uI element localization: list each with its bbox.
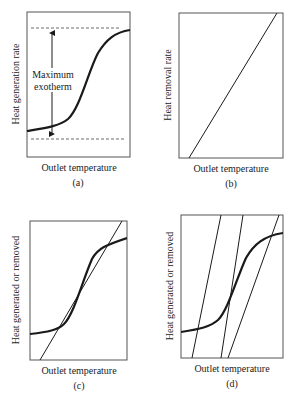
- plot-frame: [179, 13, 283, 158]
- panel-label: (a): [72, 177, 83, 189]
- heat-removal-line: [40, 221, 122, 360]
- annotation-maximum: Maximum: [32, 69, 74, 80]
- x-axis-label: Outlet temperature: [41, 162, 117, 173]
- heat-removal-line: [189, 13, 277, 158]
- panel-label: (d): [226, 378, 238, 390]
- panel-label: (c): [73, 380, 84, 392]
- panel-label: (b): [225, 178, 237, 190]
- panel-c: Heat generated or removed Outlet tempera…: [10, 221, 127, 392]
- x-axis-label: Outlet temperature: [41, 365, 117, 376]
- heat-removal-line-low: [192, 215, 221, 358]
- heat-removal-line-mid: [221, 215, 243, 358]
- y-axis-label: Heat generation rate: [10, 43, 21, 125]
- y-axis-label: Heat removal rate: [162, 49, 173, 121]
- x-axis-label: Outlet temperature: [193, 163, 269, 174]
- y-axis-label: Heat generated or removed: [10, 236, 21, 345]
- plot-frame: [30, 221, 127, 360]
- panel-a: Maximum exotherm Heat generation rate Ou…: [10, 12, 130, 189]
- figure-canvas: Maximum exotherm Heat generation rate Ou…: [0, 0, 294, 401]
- heat-generation-curve: [30, 238, 127, 334]
- annotation-exotherm: exotherm: [34, 81, 72, 92]
- panel-b: Heat removal rate Outlet temperature (b): [162, 13, 283, 190]
- x-axis-label: Outlet temperature: [194, 363, 270, 374]
- panel-d: Heat generated or removed Outlet tempera…: [164, 215, 283, 390]
- y-axis-label: Heat generated or removed: [164, 232, 175, 341]
